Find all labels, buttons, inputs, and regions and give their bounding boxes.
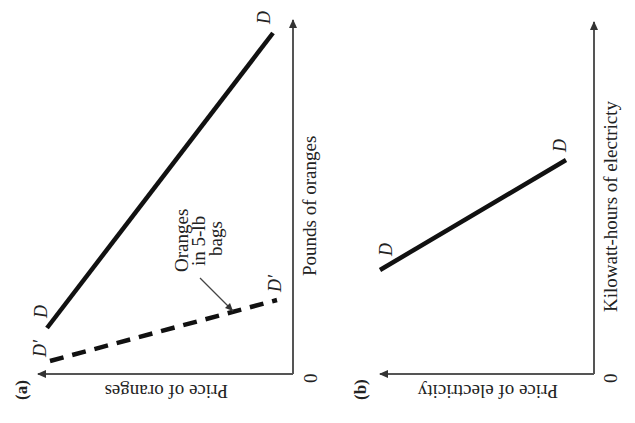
label-d-start-a: D [31, 305, 51, 319]
x-axis-label-a: Price of oranges [105, 381, 228, 402]
y-axis-label-b: Kilowatt-hours of electricty [600, 100, 621, 312]
panel-tag-b: (b) [351, 379, 370, 400]
demand-curve-d-a [47, 33, 273, 328]
panel-a: D D D′ D′ Oranges in 5-lb bags Pounds of… [12, 11, 321, 402]
origin-label-a: 0 [300, 374, 321, 384]
origin-label-b: 0 [600, 374, 621, 384]
label-d-end-a: D [254, 11, 274, 25]
annotation-line-3: bags [205, 221, 226, 256]
panel-b: D D Kilowatt-hours of electricty Price o… [351, 22, 621, 402]
label-d-prime-end-a: D′ [265, 274, 285, 293]
label-d-end-b: D [550, 139, 570, 153]
demand-diagram: D D D′ D′ Oranges in 5-lb bags Pounds of… [0, 0, 635, 423]
label-d-start-b: D [376, 243, 396, 257]
demand-curve-d-prime-a [50, 300, 277, 361]
y-axis-label-a: Pounds of oranges [299, 136, 320, 276]
annotation-oranges-bags: Oranges in 5-lb bags [171, 209, 226, 272]
x-axis-label-b: Price of electricity [417, 381, 558, 402]
demand-curve-d-b [380, 160, 566, 270]
panel-tag-a: (a) [12, 380, 31, 400]
label-d-prime-start-a: D′ [30, 339, 50, 358]
